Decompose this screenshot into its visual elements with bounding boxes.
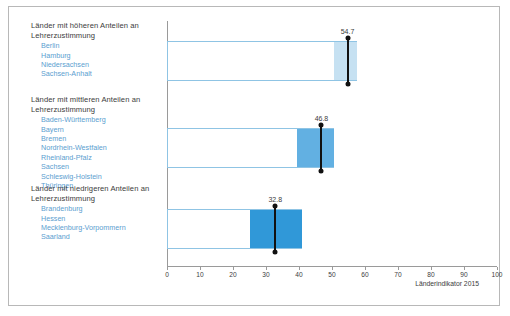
- category-group-1: Länder mit höheren Anteilen anLehrerzust…: [31, 21, 167, 79]
- group-header-line2: Lehrerzustimmung: [31, 105, 167, 115]
- x-axis-tick: [464, 267, 465, 270]
- value-marker-dot-1-2: [345, 82, 350, 87]
- value-marker-line-3: [274, 206, 276, 252]
- x-axis-tick-label: 70: [394, 271, 401, 278]
- state-list: Baden-WürttembergBayernBremenNordrhein-W…: [31, 115, 167, 190]
- x-axis-tick-label: 80: [427, 271, 434, 278]
- x-axis-tick-label: 40: [295, 271, 302, 278]
- state-item: Hessen: [31, 214, 167, 223]
- x-axis-tick-label: 30: [262, 271, 269, 278]
- state-item: Mecklenburg-Vorpommern: [31, 223, 167, 232]
- chart-page: Länder mit höheren Anteilen anLehrerzust…: [0, 0, 510, 316]
- x-axis-tick: [299, 267, 300, 270]
- state-list: BerlinHamburgNiedersachsenSachsen-Anhalt: [31, 41, 167, 79]
- x-axis-tick: [167, 267, 168, 270]
- state-item: Brandenburg: [31, 204, 167, 213]
- x-axis-tick-label: 10: [196, 271, 203, 278]
- x-axis-tick: [497, 267, 498, 270]
- value-marker-dot-3-2: [273, 250, 278, 255]
- group-header-line1: Länder mit mittleren Anteilen an: [31, 95, 167, 105]
- value-marker-line-1: [347, 38, 349, 84]
- value-marker-dot-2-1: [319, 123, 324, 128]
- x-axis-tick-label: 60: [361, 271, 368, 278]
- value-marker-dot-3-1: [273, 204, 278, 209]
- state-item: Berlin: [31, 41, 167, 50]
- state-item: Schleswig-Holstein: [31, 172, 167, 181]
- bar-fill-2: [297, 129, 333, 167]
- x-axis-tick: [200, 267, 201, 270]
- state-item: Nordrhein-Westfalen: [31, 143, 167, 152]
- value-marker-dot-1-1: [345, 36, 350, 41]
- state-item: Bayern: [31, 125, 167, 134]
- value-label-3: 32.8: [268, 196, 282, 203]
- chart-frame: Länder mit höheren Anteilen anLehrerzust…: [8, 6, 500, 306]
- bar-1: [167, 41, 357, 81]
- value-label-2: 46.8: [315, 115, 329, 122]
- value-marker-dot-2-2: [319, 169, 324, 174]
- category-group-2: Länder mit mittleren Anteilen anLehrerzu…: [31, 95, 167, 190]
- x-axis-tick-label: 90: [460, 271, 467, 278]
- x-axis-tick: [431, 267, 432, 270]
- x-axis-tick: [332, 267, 333, 270]
- x-axis-tick: [233, 267, 234, 270]
- state-item: Sachsen-Anhalt: [31, 69, 167, 78]
- value-marker-line-2: [320, 125, 322, 171]
- group-header-line1: Länder mit niedrigeren Anteilen an: [31, 184, 167, 194]
- x-axis-tick-label: 50: [328, 271, 335, 278]
- value-label-1: 54.7: [341, 28, 355, 35]
- state-item: Baden-Württemberg: [31, 115, 167, 124]
- category-group-3: Länder mit niedrigeren Anteilen anLehrer…: [31, 184, 167, 242]
- state-item: Sachsen: [31, 162, 167, 171]
- source-note: Länderindikator 2015: [415, 280, 479, 287]
- state-item: Bremen: [31, 134, 167, 143]
- x-axis-tick-label: 100: [491, 271, 502, 278]
- plot-area: 010203040506070809010054.746.832.8: [167, 21, 497, 267]
- x-axis-tick-label: 0: [165, 271, 169, 278]
- group-header-line2: Lehrerzustimmung: [31, 31, 167, 41]
- state-item: Saarland: [31, 232, 167, 241]
- state-item: Rheinland-Pfalz: [31, 153, 167, 162]
- state-item: Niedersachsen: [31, 60, 167, 69]
- state-list: BrandenburgHessenMecklenburg-VorpommernS…: [31, 204, 167, 242]
- x-axis-tick: [365, 267, 366, 270]
- bar-fill-1: [334, 42, 357, 80]
- x-axis-tick: [266, 267, 267, 270]
- x-axis-tick: [398, 267, 399, 270]
- state-item: Hamburg: [31, 51, 167, 60]
- group-header-line1: Länder mit höheren Anteilen an: [31, 21, 167, 31]
- x-axis-tick-label: 20: [229, 271, 236, 278]
- group-header-line2: Lehrerzustimmung: [31, 194, 167, 204]
